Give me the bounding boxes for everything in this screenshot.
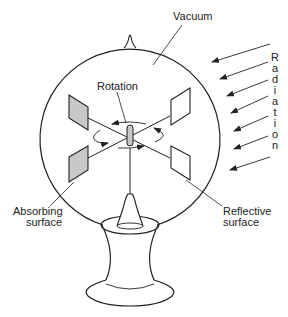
label-absorbing-2: surface xyxy=(26,216,62,228)
absorbing-vane-upper xyxy=(69,95,88,130)
spindle xyxy=(127,125,133,146)
label-reflective-2: surface xyxy=(223,216,259,228)
label-radiation: R a d i a t i o n xyxy=(271,51,279,151)
rotation-leader xyxy=(117,92,126,123)
label-rotation: Rotation xyxy=(97,80,138,92)
label-vacuum: Vacuum xyxy=(173,10,213,22)
reflective-vane-lower xyxy=(171,146,190,180)
absorbing-vane-lower xyxy=(69,146,88,182)
radiation-arrows xyxy=(212,44,270,170)
reflective-leader xyxy=(186,180,222,206)
reflective-vane-upper xyxy=(171,88,190,125)
vacuum-leader xyxy=(153,25,182,65)
svg-text:n: n xyxy=(272,139,278,151)
absorbing-leader xyxy=(50,182,74,206)
stand xyxy=(86,194,174,306)
radiometer-diagram: Vacuum Rotation Absorbing surface Reflec… xyxy=(0,0,288,317)
